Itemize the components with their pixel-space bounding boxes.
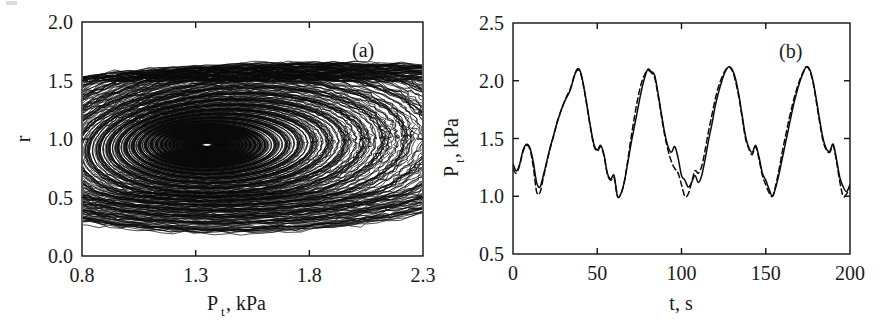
panel-a-x-axis-title-main: P	[207, 292, 218, 314]
panel-b-y-axis-title-main: P	[440, 166, 462, 177]
x-tick-label: 150	[751, 262, 781, 284]
x-tick-label: 2.3	[411, 264, 436, 286]
panel-a-x-axis-title-sub: t	[221, 304, 225, 319]
panel-a-y-axis-title: r	[12, 135, 34, 142]
figure-root: 0.81.31.82.30.00.51.01.52.0 (a) r P t , …	[0, 0, 891, 323]
x-tick-label: 200	[835, 262, 865, 284]
y-tick-label: 1.0	[479, 185, 504, 207]
panel-b-x-axis-title: t, s	[669, 292, 693, 314]
y-tick-label: 2.0	[48, 11, 73, 33]
y-tick-label: 1.5	[479, 128, 504, 150]
panel-b-y-axis-title-tail: , kPa	[440, 118, 462, 158]
y-tick-label: 2.5	[479, 12, 504, 34]
scan-artifact	[6, 1, 17, 5]
panel-a-label: (a)	[352, 39, 374, 62]
x-tick-label: 1.8	[297, 264, 322, 286]
x-tick-label: 50	[587, 262, 607, 284]
y-tick-label: 1.0	[48, 128, 73, 150]
x-tick-label: 0.8	[70, 264, 95, 286]
panel-b-label: (b)	[779, 40, 802, 63]
y-tick-label: 0.5	[48, 187, 73, 209]
y-tick-label: 2.0	[479, 70, 504, 92]
x-tick-label: 1.3	[183, 264, 208, 286]
x-tick-label: 0	[508, 262, 518, 284]
x-tick-label: 100	[667, 262, 697, 284]
y-tick-label: 0.0	[48, 245, 73, 267]
panel-b-y-axis-title-sub: t	[452, 159, 467, 163]
panel-a-x-axis-title-tail: , kPa	[226, 292, 266, 314]
y-tick-label: 1.5	[48, 70, 73, 92]
y-tick-label: 0.5	[479, 243, 504, 265]
